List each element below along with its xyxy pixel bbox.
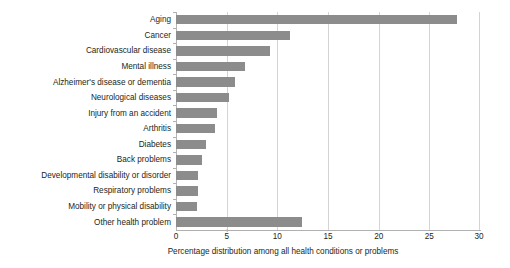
category-label: Other health problem [0, 218, 171, 227]
bar-track [176, 214, 480, 230]
category-label: Respiratory problems [0, 186, 171, 195]
bar-row: Mental illness [0, 59, 510, 75]
bar-track [176, 12, 480, 28]
bar-injury-from-an-accident [176, 108, 217, 117]
bar-track [176, 137, 480, 153]
category-label: Diabetes [0, 140, 171, 149]
bar-rows: Aging Cancer Cardiovascular disease Ment… [0, 12, 510, 230]
bar-row: Aging [0, 12, 510, 28]
x-tick-label: 0 [174, 232, 179, 242]
bar-track [176, 199, 480, 215]
bar-respiratory-problems [176, 186, 198, 195]
bar-arthritis [176, 124, 215, 133]
bar-track [176, 168, 480, 184]
x-axis-line [176, 230, 481, 231]
bar-row: Developmental disability or disorder [0, 168, 510, 184]
bar-row: Injury from an accident [0, 105, 510, 121]
x-tick-label: 30 [474, 232, 483, 242]
bar-row: Alzheimer's disease or dementia [0, 74, 510, 90]
bar-cardiovascular-disease [176, 46, 270, 55]
bar-track [176, 74, 480, 90]
bar-aging [176, 15, 457, 24]
x-tick-mark [227, 229, 228, 232]
x-axis-title: Percentage distribution among all health… [0, 246, 510, 257]
x-tick-label: 25 [425, 232, 434, 242]
bar-track [176, 183, 480, 199]
bar-row: Cardiovascular disease [0, 43, 510, 59]
bar-row: Mobility or physical disability [0, 199, 510, 215]
bar-track [176, 28, 480, 44]
bar-row: Arthritis [0, 121, 510, 137]
category-label: Arthritis [0, 124, 171, 133]
category-label: Injury from an accident [0, 109, 171, 118]
category-label: Back problems [0, 155, 171, 164]
bar-neurological-diseases [176, 93, 229, 102]
bar-track [176, 105, 480, 121]
category-label: Neurological diseases [0, 93, 171, 102]
bar-alzheimers-disease-or-dementia [176, 77, 235, 86]
x-tick-label: 5 [224, 232, 229, 242]
x-tick-labels: 0 5 10 15 20 25 30 [176, 232, 480, 244]
bar-row: Back problems [0, 152, 510, 168]
category-label: Cardiovascular disease [0, 46, 171, 55]
category-label: Alzheimer's disease or dementia [0, 78, 171, 87]
bar-row: Respiratory problems [0, 183, 510, 199]
bar-developmental-disability-or-disorder [176, 171, 198, 180]
bar-track [176, 43, 480, 59]
category-label: Aging [0, 15, 171, 24]
bar-track [176, 90, 480, 106]
category-label: Developmental disability or disorder [0, 171, 171, 180]
category-label: Mental illness [0, 62, 171, 71]
bar-cancer [176, 31, 290, 40]
bar-row: Other health problem [0, 214, 510, 230]
category-label: Mobility or physical disability [0, 202, 171, 211]
bar-row: Diabetes [0, 137, 510, 153]
bar-other-health-problem [176, 217, 302, 226]
bar-mobility-or-physical-disability [176, 202, 197, 211]
bar-track [176, 121, 480, 137]
x-tick-label: 10 [273, 232, 282, 242]
bar-row: Neurological diseases [0, 90, 510, 106]
x-tick-label: 15 [323, 232, 332, 242]
bar-track [176, 152, 480, 168]
bar-diabetes [176, 140, 206, 149]
bar-chart: Aging Cancer Cardiovascular disease Ment… [0, 0, 510, 268]
x-tick-label: 20 [374, 232, 383, 242]
bar-row: Cancer [0, 28, 510, 44]
bar-back-problems [176, 155, 202, 164]
category-label: Cancer [0, 31, 171, 40]
bar-track [176, 59, 480, 75]
bar-mental-illness [176, 62, 245, 71]
